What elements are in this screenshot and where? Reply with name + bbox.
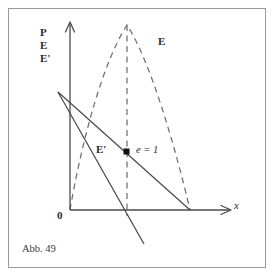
y-axis-label-line-3: E' (40, 52, 51, 65)
curve-total-revenue-e (70, 25, 190, 210)
curve-label-e-prime: E' (96, 143, 106, 156)
figure-caption: Abb. 49 (22, 243, 56, 255)
x-axis-label: x (234, 199, 239, 212)
y-axis-label-line-2: E (40, 39, 51, 52)
y-axis-label-line-1: P (40, 26, 51, 39)
line-marginal-revenue-eprime (58, 92, 144, 244)
origin-label: 0 (57, 209, 63, 222)
figure-container: P E E' E E' e = 1 x 0 Abb. 49 (0, 0, 276, 279)
unit-elasticity-label: e = 1 (136, 144, 158, 156)
y-axis-label-stack: P E E' (40, 26, 51, 65)
unit-elasticity-point-marker (124, 149, 130, 155)
curve-label-e: E (158, 35, 165, 48)
